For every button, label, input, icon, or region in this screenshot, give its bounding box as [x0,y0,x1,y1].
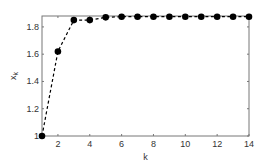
x-axis-label: k [143,152,148,162]
data-point [134,13,141,20]
x-tick-label: 6 [119,139,124,149]
x-tick-label: 10 [180,139,190,149]
data-point [71,17,78,24]
data-point [86,17,93,24]
y-tick-label: 1.2 [26,104,39,114]
x-tick-label: 4 [87,139,92,149]
data-point [55,48,62,55]
data-point [198,13,205,20]
x-tick-label: 8 [151,139,156,149]
data-point [102,14,109,21]
data-point [246,13,253,20]
data-point [150,13,157,20]
y-axis-label: xk [8,72,19,81]
x-tick-label: 2 [55,139,60,149]
line-chart: 246810121411.21.41.61.8kxk [0,0,266,167]
data-point [39,133,46,140]
y-tick-label: 1.6 [26,49,39,59]
y-tick-label: 1.8 [26,22,39,32]
series-line [42,17,249,136]
data-point [230,13,237,20]
data-point [118,13,125,20]
x-tick-label: 12 [212,139,222,149]
x-tick-label: 14 [244,139,254,149]
y-tick-label: 1.4 [26,76,39,86]
data-point [182,13,189,20]
axes-box [42,16,249,136]
data-point [166,13,173,20]
data-point [214,13,221,20]
y-tick-label: 1 [34,131,39,141]
chart: 246810121411.21.41.61.8kxk [0,0,266,167]
